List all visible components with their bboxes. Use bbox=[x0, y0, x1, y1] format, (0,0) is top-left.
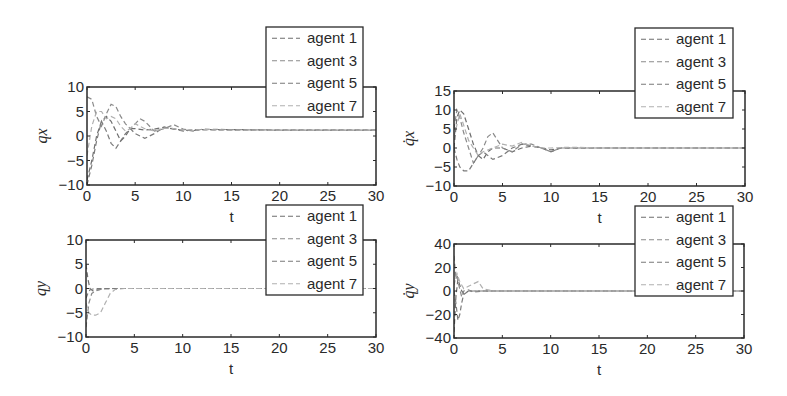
x-tick-label: 15 bbox=[223, 187, 240, 204]
series-line-agent-7 bbox=[454, 114, 745, 156]
y-tick-label: 0 bbox=[75, 280, 83, 297]
x-tick-label: 0 bbox=[83, 187, 91, 204]
legend-label: agent 1 bbox=[307, 207, 357, 224]
subplot-qdoty: 051015202530−40−2002040tq̇yagent 1agent … bbox=[400, 206, 752, 378]
x-tick-label: 20 bbox=[640, 188, 657, 205]
x-tick-label: 15 bbox=[591, 188, 608, 205]
figure-canvas: 051015202530−10−50510tqxagent 1agent 3ag… bbox=[0, 0, 787, 396]
legend-label: agent 3 bbox=[676, 231, 726, 248]
series-line-agent-1 bbox=[87, 116, 376, 180]
legend-label: agent 3 bbox=[676, 53, 726, 70]
legend-label: agent 5 bbox=[307, 74, 357, 91]
x-tick-label: 20 bbox=[639, 340, 656, 357]
y-axis-label: qx bbox=[33, 128, 51, 143]
y-tick-label: 20 bbox=[434, 259, 451, 276]
x-tick-label: 15 bbox=[223, 339, 240, 356]
x-axis-label: t bbox=[229, 360, 234, 377]
y-tick-label: −10 bbox=[426, 177, 451, 194]
series-line-agent-7 bbox=[87, 112, 376, 156]
x-tick-label: 15 bbox=[591, 340, 608, 357]
y-tick-label: −5 bbox=[67, 152, 84, 169]
y-tick-label: 5 bbox=[443, 120, 451, 137]
series-line-agent-5 bbox=[87, 121, 376, 185]
x-tick-label: 10 bbox=[542, 340, 559, 357]
legend-label: agent 3 bbox=[307, 52, 357, 69]
x-axis-label: t bbox=[229, 208, 234, 225]
y-tick-label: 40 bbox=[434, 235, 451, 252]
y-tick-label: 10 bbox=[66, 231, 83, 248]
x-tick-label: 10 bbox=[174, 339, 191, 356]
y-tick-label: 5 bbox=[75, 255, 83, 272]
y-tick-label: 10 bbox=[67, 78, 84, 95]
x-tick-label: 30 bbox=[368, 187, 385, 204]
legend: agent 1agent 3agent 5agent 7 bbox=[266, 27, 363, 117]
y-tick-label: 0 bbox=[443, 282, 451, 299]
x-tick-label: 5 bbox=[498, 340, 506, 357]
x-tick-label: 25 bbox=[688, 188, 705, 205]
legend: agent 1agent 3agent 5agent 7 bbox=[266, 205, 363, 295]
legend-label: agent 1 bbox=[676, 30, 726, 47]
y-axis-label: q̇y bbox=[400, 283, 418, 299]
x-tick-label: 5 bbox=[130, 339, 138, 356]
x-tick-label: 10 bbox=[175, 187, 192, 204]
x-tick-label: 5 bbox=[498, 188, 506, 205]
subplot-qdotx: 051015202530−10−5051015tq̇xagent 1agent … bbox=[400, 28, 753, 226]
x-tick-label: 20 bbox=[271, 339, 288, 356]
x-tick-label: 30 bbox=[368, 339, 385, 356]
x-tick-label: 30 bbox=[736, 340, 753, 357]
legend-label: agent 7 bbox=[307, 97, 357, 114]
y-tick-label: 0 bbox=[443, 139, 451, 156]
x-tick-label: 0 bbox=[450, 340, 458, 357]
legend-label: agent 7 bbox=[676, 276, 726, 293]
legend-label: agent 5 bbox=[307, 252, 357, 269]
y-tick-label: −5 bbox=[66, 304, 83, 321]
x-tick-label: 25 bbox=[687, 340, 704, 357]
x-tick-label: 5 bbox=[131, 187, 139, 204]
x-tick-label: 0 bbox=[82, 339, 90, 356]
legend-label: agent 5 bbox=[676, 253, 726, 270]
legend-label: agent 5 bbox=[676, 75, 726, 92]
x-tick-label: 10 bbox=[543, 188, 560, 205]
y-tick-label: −20 bbox=[426, 306, 451, 323]
legend-label: agent 7 bbox=[307, 275, 357, 292]
plot-lines bbox=[454, 110, 745, 171]
x-tick-label: 0 bbox=[450, 188, 458, 205]
y-axis-label: qy bbox=[32, 280, 50, 296]
y-axis-label: q̇x bbox=[400, 131, 418, 146]
legend-label: agent 1 bbox=[676, 208, 726, 225]
legend: agent 1agent 3agent 5agent 7 bbox=[635, 28, 733, 118]
x-axis-label: t bbox=[597, 361, 602, 378]
subplot-qy: 051015202530−10−50510tqyagent 1agent 3ag… bbox=[32, 205, 384, 377]
x-tick-label: 30 bbox=[737, 188, 754, 205]
subplot-qx: 051015202530−10−50510tqxagent 1agent 3ag… bbox=[33, 27, 384, 225]
legend-label: agent 3 bbox=[307, 230, 357, 247]
legend: agent 1agent 3agent 5agent 7 bbox=[635, 206, 733, 296]
y-tick-label: 0 bbox=[76, 127, 84, 144]
x-tick-label: 25 bbox=[319, 187, 336, 204]
x-tick-label: 25 bbox=[319, 339, 336, 356]
y-tick-label: −40 bbox=[426, 329, 451, 346]
x-axis-label: t bbox=[597, 209, 602, 226]
y-tick-label: −10 bbox=[59, 176, 84, 193]
y-tick-label: 10 bbox=[434, 101, 451, 118]
legend-label: agent 1 bbox=[307, 29, 357, 46]
y-tick-label: −5 bbox=[434, 158, 451, 175]
y-tick-label: −10 bbox=[58, 328, 83, 345]
y-tick-label: 15 bbox=[434, 82, 451, 99]
y-tick-label: 5 bbox=[76, 103, 84, 120]
legend-label: agent 7 bbox=[676, 98, 726, 115]
x-tick-label: 20 bbox=[271, 187, 288, 204]
